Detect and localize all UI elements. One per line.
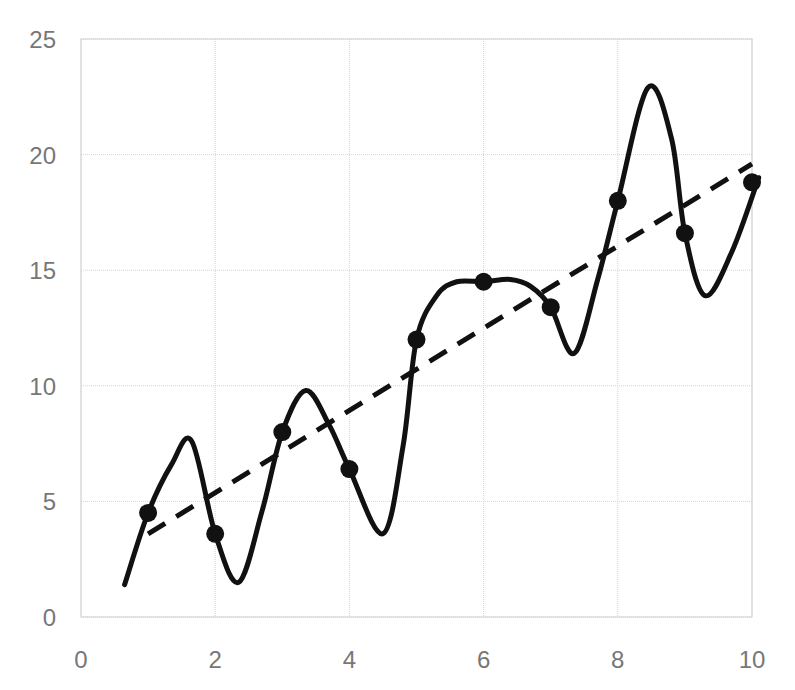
data-point bbox=[676, 224, 694, 242]
data-point bbox=[609, 192, 627, 210]
data-point bbox=[340, 460, 358, 478]
data-point bbox=[273, 423, 291, 441]
linear-fit-dashed-line bbox=[148, 164, 752, 534]
data-point bbox=[743, 173, 761, 191]
x-tick-label: 6 bbox=[477, 646, 490, 673]
y-tick-label: 0 bbox=[43, 604, 56, 631]
data-point bbox=[542, 298, 560, 316]
data-point bbox=[139, 504, 157, 522]
y-tick-label: 20 bbox=[29, 142, 56, 169]
y-tick-label: 25 bbox=[29, 26, 56, 53]
data-point bbox=[408, 331, 426, 349]
data-points bbox=[139, 173, 761, 542]
y-tick-label: 10 bbox=[29, 373, 56, 400]
x-tick-label: 10 bbox=[739, 646, 766, 673]
data-point bbox=[206, 525, 224, 543]
x-tick-label: 8 bbox=[611, 646, 624, 673]
y-tick-label: 5 bbox=[43, 488, 56, 515]
plot-border bbox=[81, 39, 752, 617]
plot-frame bbox=[81, 39, 752, 617]
x-tick-label: 4 bbox=[343, 646, 356, 673]
y-tick-label: 15 bbox=[29, 257, 56, 284]
x-tick-label: 2 bbox=[209, 646, 222, 673]
grid-lines bbox=[81, 39, 752, 617]
x-axis-tick-labels: 0246810 bbox=[74, 646, 765, 673]
chart: 0510152025 0246810 bbox=[0, 0, 795, 690]
y-axis-tick-labels: 0510152025 bbox=[29, 26, 56, 631]
data-point bbox=[475, 273, 493, 291]
x-tick-label: 0 bbox=[74, 646, 87, 673]
interpolating-curve bbox=[125, 86, 759, 585]
